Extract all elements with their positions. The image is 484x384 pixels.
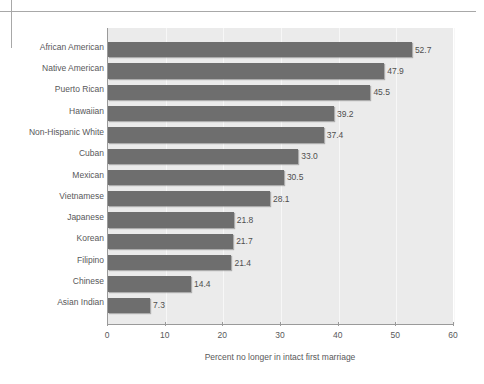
- x-tick-mark: [395, 322, 396, 326]
- plot-area: 52.747.945.539.237.433.030.528.121.821.7…: [107, 28, 453, 325]
- bar-row[interactable]: 14.4: [108, 276, 453, 291]
- bar-value-label: 37.4: [324, 130, 344, 140]
- bar[interactable]: [108, 63, 384, 78]
- bar-value-label: 21.7: [233, 236, 253, 246]
- x-tick-mark: [338, 322, 339, 326]
- bar-series: 52.747.945.539.237.433.030.528.121.821.7…: [108, 28, 453, 324]
- bar-row[interactable]: 21.4: [108, 255, 453, 270]
- category-label: Chinese: [8, 276, 104, 286]
- category-label: Mexican: [8, 170, 104, 180]
- bar[interactable]: [108, 212, 234, 227]
- bar-value-label: 33.0: [298, 151, 318, 161]
- bar-row[interactable]: 45.5: [108, 85, 453, 100]
- category-label: Native American: [8, 63, 104, 73]
- x-tick-label: 20: [218, 330, 227, 340]
- bar[interactable]: [108, 127, 324, 142]
- category-axis: African AmericanNative AmericanPuerto Ri…: [8, 30, 104, 322]
- x-tick-mark: [107, 322, 108, 326]
- bar[interactable]: [108, 85, 370, 100]
- x-tick-label: 10: [160, 330, 169, 340]
- category-label: African American: [8, 42, 104, 52]
- x-tick-mark: [222, 322, 223, 326]
- category-label: Hawaiian: [8, 106, 104, 116]
- bar[interactable]: [108, 106, 334, 121]
- x-tick-label: 40: [333, 330, 342, 340]
- bar-row[interactable]: 52.7: [108, 42, 453, 57]
- category-label: Vietnamese: [8, 191, 104, 201]
- bar[interactable]: [108, 276, 191, 291]
- bar-value-label: 30.5: [284, 172, 304, 182]
- x-tick-label: 50: [391, 330, 400, 340]
- bar[interactable]: [108, 298, 150, 313]
- gridline: [454, 28, 455, 324]
- category-label: Filipino: [8, 255, 104, 265]
- x-axis: 0102030405060: [107, 326, 453, 342]
- bar-row[interactable]: 39.2: [108, 106, 453, 121]
- bar-chart-figure: African AmericanNative AmericanPuerto Ri…: [0, 0, 484, 384]
- x-tick-label: 0: [105, 330, 110, 340]
- category-label: Puerto Rican: [8, 84, 104, 94]
- bar-row[interactable]: 33.0: [108, 149, 453, 164]
- bar-value-label: 45.5: [370, 87, 390, 97]
- category-label: Cuban: [8, 148, 104, 158]
- bar-value-label: 21.4: [231, 258, 251, 268]
- x-tick-mark: [165, 322, 166, 326]
- x-tick-mark: [453, 322, 454, 326]
- bar-value-label: 14.4: [191, 279, 211, 289]
- bar-row[interactable]: 30.5: [108, 170, 453, 185]
- x-axis-title: Percent no longer in intact first marria…: [107, 352, 453, 363]
- bar[interactable]: [108, 42, 412, 57]
- bar-value-label: 28.1: [270, 194, 290, 204]
- bar-value-label: 7.3: [150, 300, 165, 310]
- bar-value-label: 21.8: [234, 215, 254, 225]
- bar-row[interactable]: 28.1: [108, 191, 453, 206]
- bar-row[interactable]: 21.7: [108, 234, 453, 249]
- x-tick-label: 30: [275, 330, 284, 340]
- bar[interactable]: [108, 149, 298, 164]
- category-label: Asian Indian: [8, 297, 104, 307]
- bar[interactable]: [108, 255, 231, 270]
- bar-row[interactable]: 37.4: [108, 127, 453, 142]
- bar-row[interactable]: 47.9: [108, 63, 453, 78]
- bar-value-label: 47.9: [384, 66, 404, 76]
- x-tick-label: 60: [448, 330, 457, 340]
- category-label: Korean: [8, 233, 104, 243]
- category-label: Japanese: [8, 212, 104, 222]
- bar[interactable]: [108, 234, 233, 249]
- bar-value-label: 39.2: [334, 109, 354, 119]
- x-tick-mark: [280, 322, 281, 326]
- bar[interactable]: [108, 170, 284, 185]
- bar-row[interactable]: 7.3: [108, 298, 453, 313]
- bar[interactable]: [108, 191, 270, 206]
- bar-value-label: 52.7: [412, 45, 432, 55]
- bar-row[interactable]: 21.8: [108, 212, 453, 227]
- category-label: Non-Hispanic White: [8, 127, 104, 137]
